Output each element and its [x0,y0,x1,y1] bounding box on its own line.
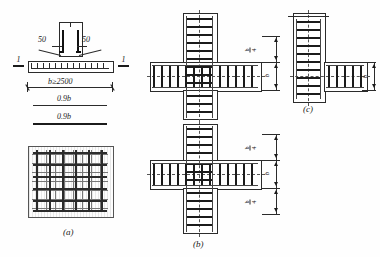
b-upper-beam-centerline [147,76,265,77]
stem-center-break [70,22,71,27]
section-mark-left-bar [13,65,24,67]
b-upper-dim-b: b [264,74,271,78]
label-50-left: 50 [38,36,46,44]
label-09b-1: 0.9b [57,95,71,103]
dim-09b-line-2 [33,123,107,125]
dowel-bar-left [62,30,64,53]
footing-bottom-bar-line [31,68,109,69]
b-lower-b4-top-den: 4 [249,146,256,151]
b-lower-dim-ext [276,134,277,214]
section-mark-left: 1 [12,56,25,67]
dim-09b-line-1 [33,105,107,106]
b-lower-dim-b4-bottom: b 4 [246,194,251,210]
c-dim-b: b [362,75,369,79]
dowel-foot-right [76,51,81,53]
caption-a: (a) [63,228,74,237]
footing-left-slope [39,49,62,56]
dim-50-left-leader [52,46,62,47]
b-lower-beam-centerline [147,174,265,175]
c-column-cap [288,16,329,17]
dowel-foot-left [59,51,64,53]
b-upper-dim-ext [276,36,277,90]
dim-50-right-leader [77,46,87,47]
stem-top-left [59,22,64,23]
c-column-centerline [308,10,309,106]
section-mark-right: 1 [117,56,130,67]
section-mark-right-number: 1 [117,56,130,64]
section-mark-right-bar [118,65,129,67]
dim-b-line [27,87,113,88]
section-mark-left-number: 1 [12,56,25,64]
c-column [293,13,326,103]
dowel-bar-right [77,30,79,53]
b-lower-dim-b: b [264,172,271,176]
b-upper-b4-den: 4 [249,48,256,53]
b-lower-b4-bot-den: 4 [249,200,256,205]
caption-c: (c) [303,105,313,114]
b-lower-dim-b4-top: b 4 [246,140,251,156]
drawing-canvas: 50 50 1 1 b≥2500 0.9b 0.9b [0,0,380,257]
label-50-right: 50 [82,36,90,44]
b-upper-dim-b4: b 4 [246,42,251,58]
stem-top-right [76,22,81,23]
label-b-min: b≥2500 [48,78,72,86]
caption-b: (b) [193,240,204,249]
label-09b-2: 0.9b [57,113,71,121]
